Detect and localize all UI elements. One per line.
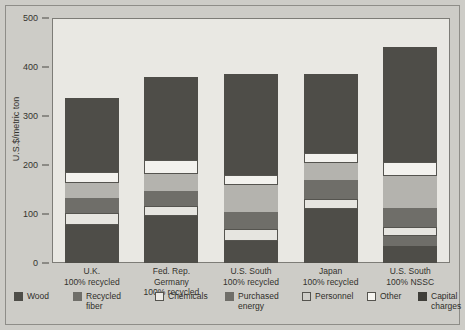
bar-segment-chemicals <box>65 213 119 225</box>
bar-segment-wood <box>304 209 358 263</box>
y-tick-label: 300 <box>23 112 38 121</box>
x-axis-label-line: 100% recycled <box>46 277 138 288</box>
bar-segment-chemicals <box>383 227 437 236</box>
bar-segment-purchased <box>65 198 119 213</box>
x-axis-label-line: Japan <box>285 266 377 277</box>
y-tick-label: 500 <box>23 14 38 23</box>
bar-segment-other <box>144 160 198 174</box>
legend-item-purchased[interactable]: Purchased energy <box>225 291 279 311</box>
bar-segment-wood <box>144 216 198 263</box>
bar-segment-capital <box>144 77 198 160</box>
chart-screenshot: 0100200300400500U.S.$/metric ton U.K.100… <box>0 0 465 330</box>
bar-segment-purchased <box>383 208 437 228</box>
y-tick-label: 200 <box>23 161 38 170</box>
legend-item-personnel[interactable]: Personnel <box>302 291 353 301</box>
y-tick-mark <box>42 263 49 264</box>
legend-label: Wood <box>27 291 49 301</box>
legend-item-capital[interactable]: Capital charges <box>418 291 461 311</box>
x-axis-label: U.S. South100% recycled <box>205 266 297 287</box>
bar-segment-personnel <box>383 176 437 208</box>
x-axis-label: U.S. South100% NSSC <box>364 266 456 287</box>
stacked-bar <box>65 98 119 263</box>
legend-label: Chemicals <box>168 291 208 301</box>
x-axis-label-line: 100% recycled <box>285 277 377 288</box>
x-axis-label-line: U.S. South <box>205 266 297 277</box>
legend-swatch-icon <box>367 292 376 301</box>
legend-swatch-icon <box>155 292 164 301</box>
x-axis-label-line: 100% NSSC <box>364 277 456 288</box>
x-axis-label: Japan100% recycled <box>285 266 377 287</box>
bar-segment-purchased <box>144 191 198 206</box>
bar-segment-capital <box>65 98 119 172</box>
bar-segment-personnel <box>65 183 119 198</box>
bar-segment-personnel <box>224 185 278 212</box>
legend-item-recfiber[interactable]: Recycled fiber <box>73 291 121 311</box>
legend-swatch-icon <box>302 292 311 301</box>
bar-segment-capital <box>224 74 278 174</box>
stacked-bar <box>224 74 278 263</box>
bar-segment-other <box>304 153 358 163</box>
x-axis-label-line: U.S. South <box>364 266 456 277</box>
y-tick-mark <box>42 165 49 166</box>
legend-label: Recycled fiber <box>86 291 121 311</box>
stacked-bar <box>144 77 198 263</box>
stacked-bar <box>383 47 437 263</box>
bar-segment-wood <box>224 241 278 263</box>
plot-wrap <box>52 18 450 265</box>
legend-swatch-icon <box>73 292 82 301</box>
x-axis-label-line: Germany <box>125 277 217 288</box>
chart-legend: WoodRecycled fiberChemicalsPurchased ene… <box>14 291 454 319</box>
legend-item-wood[interactable]: Wood <box>14 291 49 301</box>
legend-label: Purchased energy <box>238 291 279 311</box>
x-axis-label: U.K.100% recycled <box>46 266 138 287</box>
y-axis: 0100200300400500U.S.$/metric ton <box>0 18 50 265</box>
bar-segment-capital <box>304 74 358 152</box>
stacked-bar <box>304 74 358 263</box>
y-tick-label: 400 <box>23 63 38 72</box>
bar-segment-wood <box>65 225 119 263</box>
x-axis-labels: U.K.100% recycledFed. Rep.Germany100% re… <box>52 266 450 294</box>
y-tick-label: 0 <box>33 259 38 268</box>
bar-segment-other <box>224 175 278 185</box>
x-axis-label-line: Fed. Rep. <box>125 266 217 277</box>
x-axis-label-line: 100% recycled <box>205 277 297 288</box>
bar-segment-other <box>65 172 119 183</box>
legend-label: Other <box>380 291 401 301</box>
y-axis-title: U.S.$/metric ton <box>11 69 21 189</box>
bar-segment-recfiber <box>383 236 437 246</box>
bar-segment-personnel <box>144 174 198 191</box>
y-tick-mark <box>42 18 49 19</box>
bar-segment-capital <box>383 47 437 162</box>
bar-segment-other <box>383 162 437 176</box>
legend-item-chemicals[interactable]: Chemicals <box>155 291 208 301</box>
bar-segment-purchased <box>224 212 278 229</box>
legend-label: Personnel <box>315 291 353 301</box>
bar-segment-chemicals <box>304 199 358 209</box>
bar-segment-chemicals <box>144 206 198 217</box>
legend-swatch-icon <box>225 292 234 301</box>
y-tick-mark <box>42 116 49 117</box>
y-tick-mark <box>42 67 49 68</box>
bar-segment-personnel <box>304 163 358 180</box>
legend-swatch-icon <box>14 292 23 301</box>
bars-container <box>52 18 450 263</box>
legend-item-other[interactable]: Other <box>367 291 401 301</box>
bar-segment-wood <box>383 246 437 263</box>
bar-segment-purchased <box>304 180 358 200</box>
y-tick-label: 100 <box>23 210 38 219</box>
legend-label: Capital charges <box>431 291 461 311</box>
y-tick-mark <box>42 214 49 215</box>
legend-swatch-icon <box>418 292 427 301</box>
x-axis-label-line: U.K. <box>46 266 138 277</box>
bar-segment-chemicals <box>224 229 278 241</box>
